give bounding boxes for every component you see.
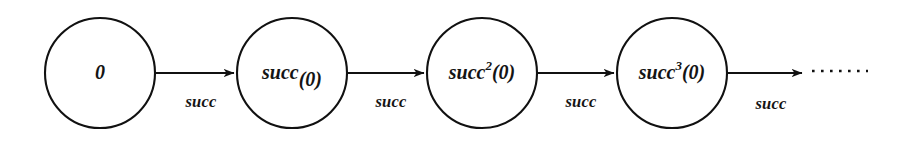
node-label-succ-3-0: succ3(0) <box>638 58 706 84</box>
edge-label-succ-1: succ <box>184 92 217 111</box>
edge-label-succ-4: succ <box>754 94 787 113</box>
successor-chain-diagram: 0 succ(0) succ2(0) succ3(0) succ succ su… <box>0 0 902 146</box>
node-labels: 0 succ(0) succ2(0) succ3(0) <box>95 58 705 91</box>
node-label-zero: 0 <box>95 61 105 83</box>
edge-label-succ-2: succ <box>374 92 407 111</box>
edge-label-succ-3: succ <box>564 92 597 111</box>
node-label-succ-2-0: succ2(0) <box>448 58 516 84</box>
